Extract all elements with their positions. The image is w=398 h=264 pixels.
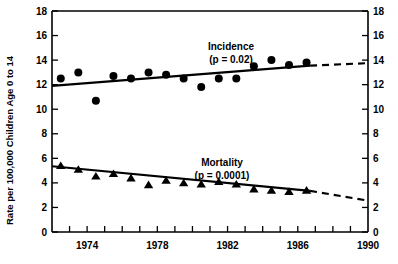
incidence-annotation: Incidence (p = 0.02)	[208, 41, 255, 65]
y-tick-label-left: 0	[41, 227, 47, 238]
x-tick-label: 1978	[146, 240, 169, 251]
mortality-pvalue: (p = 0.0001)	[195, 170, 250, 181]
incidence-mortality-trend-chart: Rate per 100,000 Children Age 0 to 14 02…	[0, 0, 398, 264]
incidence-point	[197, 83, 205, 91]
incidence-point	[127, 75, 135, 83]
incidence-point	[180, 75, 188, 83]
y-tick-label-left: 8	[41, 128, 47, 139]
incidence-point	[162, 71, 170, 79]
y-axis-title: Rate per 100,000 Children Age 0 to 14	[4, 55, 15, 225]
incidence-pvalue: (p = 0.02)	[209, 54, 253, 65]
y-axis-right-ticks: 024681012141618	[362, 6, 385, 238]
y-tick-label-left: 16	[36, 30, 48, 41]
y-tick-label-right: 6	[373, 153, 379, 164]
y-tick-label-right: 18	[373, 6, 385, 17]
y-tick-label-right: 2	[373, 202, 379, 213]
mortality-label: Mortality	[201, 157, 243, 168]
mortality-annotation: Mortality (p = 0.0001)	[195, 157, 250, 181]
mortality-point	[91, 172, 100, 180]
y-tick-label-left: 12	[36, 79, 48, 90]
incidence-label: Incidence	[208, 41, 255, 52]
x-tick-label: 1974	[76, 240, 99, 251]
incidence-point	[215, 75, 223, 83]
y-tick-label-right: 12	[373, 79, 385, 90]
incidence-point	[267, 56, 275, 64]
mortality-point	[144, 181, 153, 189]
x-tick-label: 1990	[357, 240, 380, 251]
y-tick-label-right: 10	[373, 104, 385, 115]
y-tick-label-right: 14	[373, 55, 385, 66]
incidence-point	[232, 75, 240, 83]
incidence-point	[57, 75, 65, 83]
incidence-point	[303, 59, 311, 67]
y-tick-label-left: 2	[41, 202, 47, 213]
x-tick-label: 1982	[216, 240, 239, 251]
x-axis-ticks: 19741978198219861990	[70, 226, 380, 251]
y-tick-label-right: 4	[373, 177, 379, 188]
incidence-point	[109, 72, 117, 80]
y-tick-label-left: 4	[41, 177, 47, 188]
y-tick-label-left: 14	[36, 55, 48, 66]
mortality-point	[56, 162, 65, 170]
y-tick-label-left: 6	[41, 153, 47, 164]
mortality-trend-line-dashed	[310, 191, 368, 201]
chart-figure: Rate per 100,000 Children Age 0 to 14 02…	[0, 0, 398, 264]
y-tick-label-left: 10	[36, 104, 48, 115]
y-tick-label-right: 0	[373, 227, 379, 238]
x-tick-label: 1986	[287, 240, 310, 251]
y-tick-label-left: 18	[36, 6, 48, 17]
incidence-point	[285, 61, 293, 69]
y-axis-left-ticks: 024681012141618	[36, 6, 58, 238]
incidence-point	[145, 68, 153, 76]
incidence-point	[92, 97, 100, 105]
incidence-trend-line-dashed	[310, 63, 368, 65]
incidence-point	[74, 68, 82, 76]
incidence-data-points	[57, 56, 311, 105]
y-tick-label-right: 16	[373, 30, 385, 41]
y-tick-label-right: 8	[373, 128, 379, 139]
